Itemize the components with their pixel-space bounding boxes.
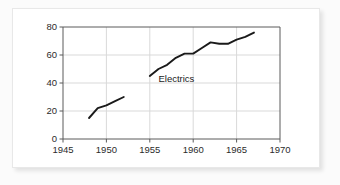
chart-figure: 020406080 194519501955196019651970 Elect…	[0, 0, 340, 185]
y-tick-label-0: 0	[52, 133, 57, 144]
y-tick-label-80: 80	[46, 21, 57, 32]
annotation-group: Electrics	[158, 73, 194, 84]
x-tick-marks	[63, 139, 280, 143]
x-tick-label-1960: 1960	[183, 144, 204, 155]
y-tick-marks	[60, 27, 64, 139]
plot-wrapper: 020406080 194519501955196019651970 Elect…	[0, 0, 340, 185]
annotation-label-0: Electrics	[158, 73, 194, 84]
y-tick-label-60: 60	[46, 49, 57, 60]
x-axis-tick-labels: 194519501955196019651970	[52, 144, 290, 155]
line-chart-svg: 020406080 194519501955196019651970 Elect…	[0, 0, 340, 185]
x-tick-label-1965: 1965	[226, 144, 247, 155]
x-tick-label-1955: 1955	[139, 144, 160, 155]
y-tick-label-40: 40	[46, 77, 57, 88]
x-tick-label-1970: 1970	[269, 144, 290, 155]
x-tick-label-1945: 1945	[52, 144, 73, 155]
y-axis-tick-labels: 020406080	[46, 21, 57, 144]
x-tick-label-1950: 1950	[96, 144, 117, 155]
y-tick-label-20: 20	[46, 105, 57, 116]
